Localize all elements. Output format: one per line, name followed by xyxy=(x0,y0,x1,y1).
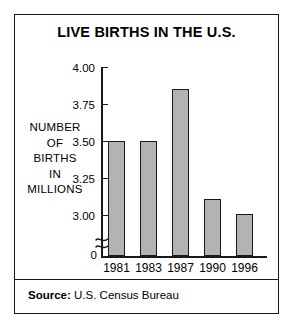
y-tick-mark xyxy=(102,104,108,105)
x-tick-label: 1996 xyxy=(228,261,262,275)
source-label: Source: xyxy=(28,289,71,301)
plot-area: NUMBER OF BIRTHS IN MILLIONS 4.00 3.75 3… xyxy=(15,15,280,279)
y-tick-label: 3.25 xyxy=(55,174,95,186)
bar-1981 xyxy=(108,141,125,256)
y-tick-label: 3.50 xyxy=(55,137,95,149)
source-divider xyxy=(15,279,278,280)
bar-1996 xyxy=(236,214,253,256)
y-tick-label: 4.00 xyxy=(55,63,95,75)
x-tick-label: 1981 xyxy=(100,261,134,275)
bar-1983 xyxy=(140,141,157,256)
y-axis-title-line-1: NUMBER xyxy=(17,120,93,136)
y-axis-line xyxy=(101,67,103,257)
source-text: U.S. Census Bureau xyxy=(74,289,179,301)
y-axis-title-line-3: BIRTHS xyxy=(17,151,93,167)
y-axis-title: NUMBER OF BIRTHS IN MILLIONS xyxy=(17,120,93,198)
x-axis-line xyxy=(101,256,267,258)
source-note: Source: U.S. Census Bureau xyxy=(28,289,179,301)
y-tick-label: 3.00 xyxy=(55,211,95,223)
y-tick-label: 3.75 xyxy=(55,100,95,112)
bar-1987 xyxy=(172,89,189,256)
x-tick-label: 1987 xyxy=(164,261,198,275)
x-tick-label: 1990 xyxy=(196,261,230,275)
chart-figure: LIVE BIRTHS IN THE U.S. NUMBER OF BIRTHS… xyxy=(14,14,279,314)
y-axis-zero-label: 0 xyxy=(77,249,97,261)
y-tick-mark xyxy=(102,67,108,68)
bar-1990 xyxy=(204,199,221,256)
x-tick-label: 1983 xyxy=(132,261,166,275)
